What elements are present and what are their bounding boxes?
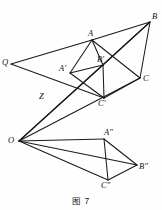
segment-Q-Cprime [11, 64, 104, 98]
point-label-Z: Z [39, 92, 44, 101]
segment-Q-A [11, 40, 92, 64]
point-label-O: O [8, 136, 14, 145]
point-label-B: B [152, 12, 157, 21]
figure-caption: 图 7 [0, 194, 162, 206]
point-label-A: A [88, 29, 93, 38]
segment-O-Cdoubleprime [19, 141, 108, 180]
segment-Bdbl-Cdbl [108, 165, 137, 180]
segment-O-Adoubleprime [19, 139, 104, 141]
segments-group [11, 22, 150, 180]
point-label-App: A″ [104, 128, 113, 137]
segment-Aprime-Cprime [70, 73, 104, 98]
point-label-Cp: C′ [98, 99, 106, 108]
segment-A-B [92, 22, 150, 40]
point-label-Q: Q [2, 58, 8, 67]
segment-O-Cprime-C [19, 78, 140, 141]
segment-Bprime-Cprime [103, 65, 104, 98]
segment-O-Bdoubleprime [19, 141, 137, 165]
point-label-Bp: B′ [97, 55, 104, 64]
point-label-Bpp: B″ [139, 162, 148, 171]
segment-Adbl-Bdbl [104, 139, 137, 165]
point-label-C: C [143, 74, 149, 83]
point-label-Ap: A′ [59, 64, 66, 73]
geometry-figure: QABCA′B′C′ZOA″B″C″ 图 7 [0, 0, 162, 210]
point-label-Cpp: C″ [101, 181, 110, 190]
segment-O-Aprimepath [19, 65, 103, 141]
geometry-canvas [0, 0, 162, 210]
